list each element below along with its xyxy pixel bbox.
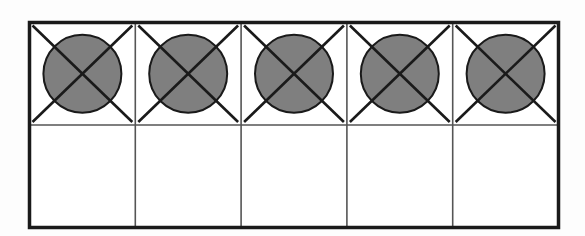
ten-frame-diagram bbox=[0, 0, 585, 236]
ten-frame bbox=[0, 0, 585, 236]
